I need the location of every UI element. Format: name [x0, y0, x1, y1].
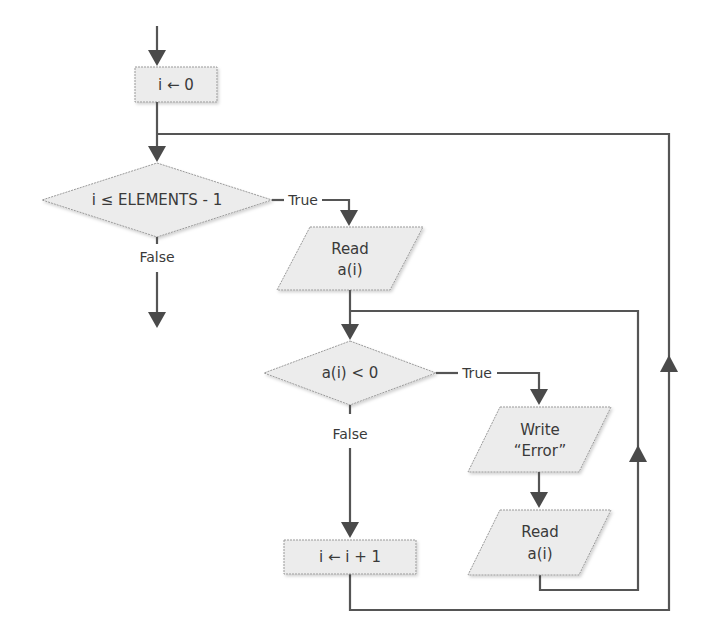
write-error-parallelogram: Write “Error”: [468, 407, 611, 472]
write-to-read-connector: [530, 472, 548, 508]
neg-true-label: True: [461, 365, 492, 381]
read-again-line1: Read: [521, 523, 559, 541]
read-line2: a(i): [337, 261, 362, 279]
loop-true-label: True: [287, 192, 318, 208]
increment-text: i ← i + 1: [319, 548, 381, 566]
read-line1: Read: [331, 240, 369, 258]
read-again-parallelogram: Read a(i): [468, 510, 611, 575]
loop-condition-decision: i ≤ ELEMENTS - 1: [42, 163, 272, 237]
init-text: i ← 0: [158, 76, 194, 94]
init-to-condition-connector: [148, 102, 166, 162]
loop-condition-text: i ≤ ELEMENTS - 1: [92, 191, 222, 209]
write-line1: Write: [520, 421, 560, 439]
loop-false-label: False: [139, 249, 174, 265]
init-process-box: i ← 0: [135, 67, 217, 102]
flowchart-canvas: i ← 0 i ≤ ELEMENTS - 1 True False Read a…: [0, 0, 705, 638]
read-again-line2: a(i): [527, 545, 552, 563]
check-negative-decision: a(i) < 0: [264, 341, 436, 405]
increment-process-box: i ← i + 1: [284, 540, 416, 574]
read-input-parallelogram: Read a(i): [277, 227, 423, 290]
neg-false-branch: False: [332, 405, 367, 538]
entry-arrow: [148, 26, 166, 66]
loop-false-branch: False: [139, 237, 174, 328]
read-to-check-connector: [341, 290, 359, 340]
neg-false-label: False: [332, 426, 367, 442]
write-line2: “Error”: [514, 442, 567, 460]
check-negative-text: a(i) < 0: [322, 364, 379, 382]
loop-true-branch: True: [272, 192, 358, 226]
neg-true-branch: True: [436, 365, 548, 405]
